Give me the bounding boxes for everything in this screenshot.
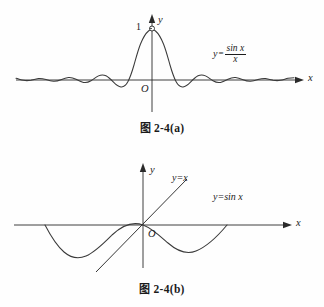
line-label-y-equals-x: y=x: [172, 173, 188, 183]
x-axis-label-a: x: [308, 72, 313, 83]
caption-number: 2-4(a): [154, 122, 185, 134]
textbook-figure-page: y x 1 O y= sin x x 图2-4(a): [0, 0, 324, 307]
curve-label-sinx-over-x: y= sin x x: [213, 45, 246, 65]
origin-label-a: O: [141, 83, 149, 94]
fraction-numerator: sin x: [225, 44, 247, 55]
x-axis-label-b: x: [296, 217, 301, 228]
identity-line: [96, 179, 187, 272]
fraction-denominator: x: [225, 55, 247, 65]
caption-figure-a: 图2-4(a): [0, 119, 324, 135]
curve-label-y-equals-sin-x: y=sin x: [213, 192, 243, 202]
plot-y-equals-x-vs-sinx: [0, 150, 324, 278]
y-axis-label-a: y: [158, 14, 163, 25]
caption-label-cjk: 图: [139, 283, 150, 296]
sine-curve: [45, 224, 227, 258]
fraction: sin x x: [225, 44, 247, 64]
y-tick-label-1: 1: [136, 21, 141, 32]
caption-number: 2-4(b): [154, 283, 185, 295]
y-axis: [140, 163, 146, 268]
caption-label-cjk: 图: [140, 122, 151, 135]
figure-2-4-a: y x 1 O y= sin x x 图2-4(a): [0, 0, 324, 150]
figure-2-4-b: y x O y=x y=sin x 图2-4(b): [0, 150, 324, 307]
curve-label-equals: =: [217, 48, 224, 58]
caption-figure-b: 图2-4(b): [0, 280, 324, 296]
sinc-curve: [16, 29, 294, 87]
y-axis-label-b: y: [150, 164, 155, 175]
origin-label-b: O: [148, 228, 156, 239]
